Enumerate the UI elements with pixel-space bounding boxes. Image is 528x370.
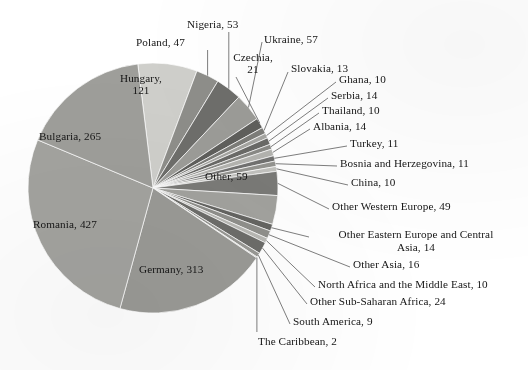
slice-label-poland: Poland, 47 [136,36,185,48]
slice-label-thailand: Thailand, 10 [322,104,380,116]
slice-label-other-western-europe: Other Western Europe, 49 [332,200,451,212]
leader-line [271,113,319,147]
leader-line [276,164,337,166]
slice-label-serbia: Serbia, 14 [331,89,377,101]
leader-line [258,255,290,324]
slice-label-caribbean: The Caribbean, 2 [258,335,337,347]
slice-label-other-eastern-europe: Other Eastern Europe and Central Asia, 1… [312,228,520,254]
slice-label-bosnia: Bosnia and Herzegovina, 11 [340,157,469,169]
slice-label-ghana: Ghana, 10 [339,73,386,85]
leader-line [278,183,329,209]
slice-label-other-eastern-europe-line2: Asia, 14 [397,241,435,253]
slice-label-other: Other, 59 [205,170,248,182]
slice-label-bulgaria: Bulgaria, 265 [39,130,101,142]
slice-label-other-sub-saharan: Other Sub-Saharan Africa, 24 [310,295,446,307]
slice-label-other-asia: Other Asia, 16 [353,258,419,270]
slice-label-turkey: Turkey, 11 [350,137,399,149]
slice-label-czechia: Czechia, 21 [231,51,275,76]
leader-line [263,248,307,304]
slice-label-hungary-line2: 121 [132,84,149,96]
leader-line [266,241,315,287]
slice-label-hungary-line1: Hungary, [120,72,162,84]
leader-line [272,228,310,237]
pie-slices [28,63,278,313]
chart-canvas: Hungary, 121 Bulgaria, 265 Romania, 427 … [0,0,528,370]
slice-label-czechia-line2: 21 [247,63,258,75]
slice-label-romania: Romania, 427 [33,218,97,230]
slice-label-germany: Germany, 313 [139,263,203,275]
slice-label-other-eastern-europe-line1: Other Eastern Europe and Central [339,228,494,240]
slice-label-nigeria: Nigeria, 53 [187,18,238,30]
slice-label-south-america: South America, 9 [293,315,373,327]
leader-line [274,146,347,158]
slice-label-north-africa: North Africa and the Middle East, 10 [318,278,488,290]
slice-label-hungary: Hungary, 121 [108,72,174,97]
slice-label-albania: Albania, 14 [313,120,366,132]
leader-line [277,169,349,185]
slice-label-ukraine: Ukraine, 57 [264,33,318,45]
slice-label-czechia-line1: Czechia, [233,51,273,63]
slice-label-china: China, 10 [351,176,395,188]
